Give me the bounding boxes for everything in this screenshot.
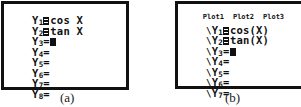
y2-row[interactable]: Y2tan X [6,16,83,26]
y4-row[interactable]: Y4= [6,37,50,47]
y6-row[interactable]: Y6= [6,58,50,68]
caption-a: (a) [60,91,74,105]
y7-row[interactable]: Y7= [6,68,50,78]
y3-row[interactable]: Y3= [6,26,56,36]
y5-row[interactable]: Y5= [6,47,50,57]
equals-sign[interactable]: = [43,88,50,100]
y5-row[interactable]: \Y5= [180,57,230,67]
cursor-icon [50,38,56,46]
y1-row[interactable]: \Y1cos(X) [180,15,269,25]
calculator-screen-b: Plot1Plot2Plot3 \Y1cos(X) \Y2tan(X) \Y3=… [175,1,301,89]
y4-row[interactable]: \Y4= [180,46,230,56]
expression[interactable]: tan(X) [230,34,269,46]
y3-row[interactable]: \Y3= [180,36,236,46]
y8-row[interactable]: Y8= [6,79,50,89]
y6-row[interactable]: \Y6= [180,67,230,77]
y1-row[interactable]: Y1cos X [6,5,83,15]
calculator-screen-a: Y1cos X Y2tan X Y3= Y4= Y5= Y6= Y7= Y8= [1,1,129,90]
y2-row[interactable]: \Y2tan(X) [180,25,269,35]
caption-b: (b) [225,91,240,105]
cursor-icon [230,48,236,56]
y7-row[interactable]: \Y7= [180,78,230,88]
